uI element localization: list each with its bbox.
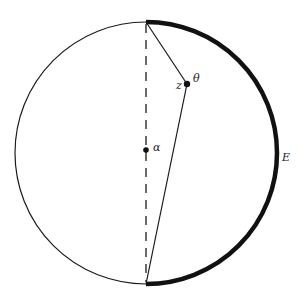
label-alpha: α — [153, 141, 161, 154]
point-z — [184, 81, 190, 87]
label-z: z — [175, 79, 182, 92]
point-alpha — [143, 147, 149, 153]
diagram-canvas: z θ α E — [0, 0, 305, 306]
segment-z-to-bottom — [146, 84, 187, 284]
label-theta: θ — [193, 72, 200, 85]
arc-E — [146, 22, 277, 284]
label-E: E — [281, 151, 290, 164]
segment-top-to-z — [146, 22, 187, 84]
